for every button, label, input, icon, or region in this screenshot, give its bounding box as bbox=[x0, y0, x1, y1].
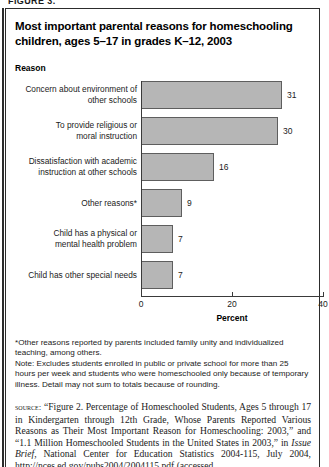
bar-value-label: 9 bbox=[187, 198, 192, 208]
bar-category-label-line1: Child has a physical or bbox=[0, 228, 137, 239]
bar-category-label-line2: instruction at other schools bbox=[0, 167, 137, 178]
bar-rect bbox=[141, 261, 173, 289]
source-text-part2: , National Center for Education Statisti… bbox=[15, 448, 311, 467]
source-label: source: bbox=[15, 402, 41, 412]
x-axis-tick bbox=[141, 292, 142, 297]
bar-value-label: 30 bbox=[283, 126, 292, 136]
table-row: Other reasons* 9 bbox=[15, 189, 311, 217]
value-axis-title: Percent bbox=[141, 313, 323, 323]
bar-category-label-line2: moral instruction bbox=[0, 131, 137, 142]
note-text: Note: Excludes students enrolled in publ… bbox=[15, 359, 311, 390]
bar-rect bbox=[141, 189, 182, 217]
bar-value-label: 7 bbox=[178, 270, 183, 280]
bar-category-label: To provide religious or moral instructio… bbox=[0, 120, 137, 141]
footnote-text: *Other reasons reported by parents inclu… bbox=[15, 338, 311, 359]
bar-value-label: 7 bbox=[178, 234, 183, 244]
bar-category-label-line2: mental health problem bbox=[0, 239, 137, 250]
bar-category-label-line1: Other reasons* bbox=[0, 198, 137, 209]
bar-chart-plot-area: Concern about environment of other schoo… bbox=[15, 81, 311, 311]
x-axis-tick-label: 20 bbox=[227, 299, 236, 309]
table-row: Dissatisfaction with academic instructio… bbox=[15, 153, 311, 181]
category-axis-line bbox=[141, 81, 142, 297]
bar-rect bbox=[141, 81, 282, 109]
source-text-part1: “Figure 2. Percentage of Homeschooled St… bbox=[15, 401, 311, 448]
chart-title: Most important parental reasons for home… bbox=[15, 19, 311, 48]
bar-category-label: Concern about environment of other schoo… bbox=[0, 84, 137, 105]
bar-rect bbox=[141, 117, 278, 145]
bar-category-label-line1: Child has other special needs bbox=[0, 270, 137, 281]
bar-category-label: Child has other special needs bbox=[0, 270, 137, 281]
x-axis-tick-label: 40 bbox=[318, 299, 327, 309]
bar-value-label: 16 bbox=[219, 162, 228, 172]
bar-category-label-line2: other schools bbox=[0, 95, 137, 106]
x-axis-tick-label: 0 bbox=[139, 299, 144, 309]
bar-category-label: Other reasons* bbox=[0, 198, 137, 209]
x-axis-tick bbox=[232, 292, 233, 297]
category-axis-title: Reason bbox=[15, 63, 310, 73]
bar-category-label: Child has a physical or mental health pr… bbox=[0, 228, 137, 249]
bar-category-label-line1: To provide religious or bbox=[0, 120, 137, 131]
bar-rect bbox=[141, 153, 214, 181]
table-row: To provide religious or moral instructio… bbox=[15, 117, 311, 145]
source-block: source: “Figure 2. Percentage of Homesch… bbox=[15, 401, 311, 467]
figure-number-caption: FIGURE 3. bbox=[8, 0, 208, 5]
notes-block: *Other reasons reported by parents inclu… bbox=[15, 338, 311, 390]
figure-panel: Most important parental reasons for home… bbox=[5, 8, 320, 467]
bar-category-label: Dissatisfaction with academic instructio… bbox=[0, 156, 137, 177]
table-row: Child has other special needs 7 bbox=[15, 261, 311, 289]
bar-rect bbox=[141, 225, 173, 253]
x-axis-tick bbox=[323, 292, 324, 297]
bar-value-label: 31 bbox=[287, 90, 296, 100]
figure-panel-inner: Most important parental reasons for home… bbox=[6, 9, 319, 467]
bar-category-label-line1: Concern about environment of bbox=[0, 84, 137, 95]
bar-category-label-line1: Dissatisfaction with academic bbox=[0, 156, 137, 167]
table-row: Concern about environment of other schoo… bbox=[15, 81, 311, 109]
table-row: Child has a physical or mental health pr… bbox=[15, 225, 311, 253]
